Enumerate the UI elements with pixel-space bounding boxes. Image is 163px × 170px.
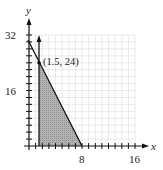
y-tick-label-16: 16 (5, 85, 17, 97)
x-axis-arrow-icon (142, 144, 149, 149)
y-axis-arrow-icon (27, 18, 32, 25)
vertex-point (37, 61, 41, 65)
x-tick-label-16: 16 (129, 153, 141, 165)
feasible-region-chart: y x 32 16 8 16 (1.5, 24) (0, 0, 163, 170)
point-annotation: (1.5, 24) (43, 56, 79, 68)
x-axis-label: x (150, 140, 156, 152)
y-axis-label: y (25, 4, 31, 16)
vertical-boundary-arrow-icon (37, 35, 42, 42)
y-tick-label-32: 32 (5, 29, 16, 41)
x-tick-label-8: 8 (79, 153, 85, 165)
